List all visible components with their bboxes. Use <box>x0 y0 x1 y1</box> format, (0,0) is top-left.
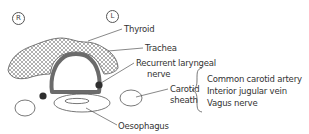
thyroid-leader <box>88 29 122 41</box>
carotid-sheath-label-line2: sheath <box>170 95 198 105</box>
thyroid-label: Thyroid <box>124 24 154 34</box>
oesophagus-leader <box>86 108 117 125</box>
trachea-leader <box>108 48 143 51</box>
sheath-content-common-carotid-artery: Common carotid artery <box>207 74 302 84</box>
oesophagus-lumen <box>65 98 89 103</box>
right-side-marker: R <box>12 12 25 25</box>
left-side-marker: L <box>106 10 119 23</box>
neck-cross-section-diagram: R L Thyroid Trachea Recurrent laryngeal … <box>0 0 309 134</box>
recurrent-laryngeal-label-line1: Recurrent laryngeal <box>136 58 216 68</box>
trachea-ring <box>52 54 100 92</box>
oesophagus-label: Oesophagus <box>118 121 169 131</box>
carotid-leader <box>136 89 168 97</box>
carotid-sheath-label-line1: Carotid <box>170 84 199 94</box>
sheath-content-vagus-nerve: Vagus nerve <box>207 98 257 108</box>
sheath-content-interior-jugular-vein: Interior jugular vein <box>207 86 287 96</box>
carotid-sheath-right <box>15 100 35 116</box>
nerve-dot-left <box>39 92 46 99</box>
carotid-sheath-left <box>120 90 142 106</box>
trachea-label: Trachea <box>145 43 177 53</box>
recurrent-laryngeal-label-line2: nerve <box>147 69 170 79</box>
